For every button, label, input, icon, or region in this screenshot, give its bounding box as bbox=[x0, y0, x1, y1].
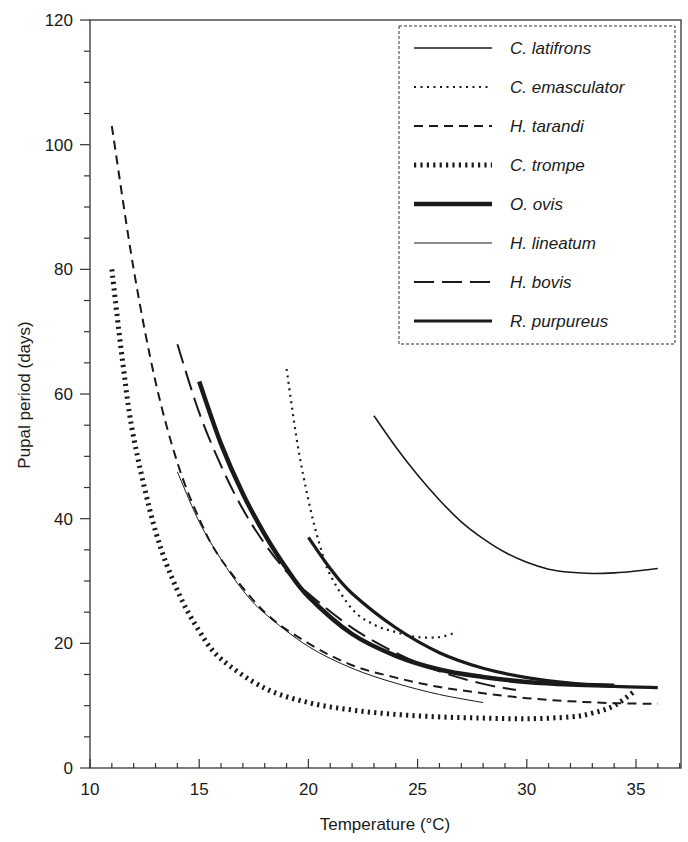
x-tick-label: 35 bbox=[627, 780, 646, 799]
x-tick-label: 20 bbox=[299, 780, 318, 799]
x-axis-title: Temperature (°C) bbox=[320, 815, 451, 834]
series-line-r-purpureus bbox=[308, 537, 657, 687]
legend-label: O. ovis bbox=[510, 195, 563, 214]
legend: C. latifronsC. emasculatorH. tarandiC. t… bbox=[399, 26, 675, 344]
y-tick-label: 80 bbox=[54, 260, 73, 279]
legend-label: R. purpureus bbox=[510, 312, 609, 331]
y-tick-label: 100 bbox=[45, 136, 73, 155]
y-axis: 020406080100120 bbox=[45, 11, 90, 778]
y-tick-label: 120 bbox=[45, 11, 73, 30]
x-tick-label: 25 bbox=[408, 780, 427, 799]
legend-label: H. tarandi bbox=[510, 117, 585, 136]
chart-canvas: 101520253035 020406080100120 C. latifron… bbox=[0, 0, 688, 842]
legend-label: C. latifrons bbox=[510, 39, 592, 58]
legend-label: H. lineatum bbox=[510, 234, 596, 253]
x-axis: 101520253035 bbox=[81, 759, 680, 799]
y-tick-label: 0 bbox=[64, 759, 73, 778]
legend-label: C. emasculator bbox=[510, 78, 626, 97]
legend-label: C. trompe bbox=[510, 156, 585, 175]
series-line-h-bovis bbox=[177, 344, 516, 690]
legend-label: H. bovis bbox=[510, 273, 572, 292]
x-tick-label: 10 bbox=[81, 780, 100, 799]
x-tick-label: 30 bbox=[517, 780, 536, 799]
y-axis-title: Pupal period (days) bbox=[15, 321, 34, 468]
series-line-c-latifrons bbox=[374, 416, 658, 574]
series-line-o-ovis bbox=[199, 382, 614, 686]
y-tick-label: 60 bbox=[54, 385, 73, 404]
y-tick-label: 40 bbox=[54, 510, 73, 529]
y-tick-label: 20 bbox=[54, 634, 73, 653]
x-tick-label: 15 bbox=[190, 780, 209, 799]
legend-box bbox=[399, 26, 675, 344]
